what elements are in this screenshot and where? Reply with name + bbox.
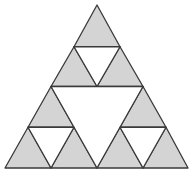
filled-triangle xyxy=(74,5,120,47)
sierpinski-diagram xyxy=(0,0,194,192)
